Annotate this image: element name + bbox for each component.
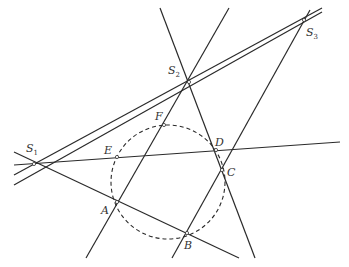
label-s1: S1 xyxy=(26,142,38,157)
labels-group: S1S2S3ABCDEF xyxy=(26,26,318,252)
line-e-f-s3 xyxy=(14,12,322,185)
point-s3 xyxy=(302,18,305,21)
points-group xyxy=(32,18,305,234)
point-s1 xyxy=(32,162,35,165)
label-s3: S3 xyxy=(306,26,318,41)
label-c: C xyxy=(227,166,236,179)
label-b: B xyxy=(183,239,192,252)
point-e xyxy=(115,155,118,158)
point-s2 xyxy=(187,80,190,83)
point-f xyxy=(162,123,165,126)
label-e: E xyxy=(103,144,112,157)
line-s1-e-d xyxy=(14,142,340,165)
label-s2: S2 xyxy=(168,64,180,79)
label-f: F xyxy=(154,110,163,123)
label-a: A xyxy=(100,204,109,217)
point-a xyxy=(115,200,118,203)
line-s1-s2-s3 xyxy=(14,8,322,175)
line-s1-a-b xyxy=(14,152,239,258)
dashed-circle xyxy=(111,125,225,239)
point-c xyxy=(220,168,223,171)
lines-group xyxy=(14,8,340,258)
label-d: D xyxy=(214,136,224,149)
geometry-diagram: S1S2S3ABCDEF xyxy=(0,0,349,267)
point-b xyxy=(185,231,188,234)
